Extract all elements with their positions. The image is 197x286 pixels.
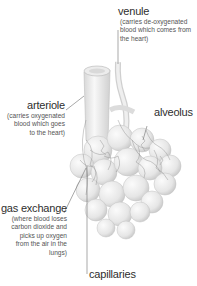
venule-label: venule (carries de-oxygenated blood whic… (118, 6, 191, 43)
alveoli-cluster (70, 125, 181, 239)
capillaries-label: capillaries (89, 269, 136, 281)
venule-vessel (110, 62, 134, 130)
arteriole-term: arteriole (7, 100, 65, 112)
capillaries-term: capillaries (89, 269, 136, 281)
gas-exchange-description: (where blood loses carbon dioxide and pi… (1, 215, 67, 258)
alveolus-label: alveolus (154, 107, 193, 119)
gas-exchange-term: gas exchange (1, 203, 67, 215)
arteriole-label: arteriole (carries oxygenated blood whic… (7, 100, 65, 137)
venule-term: venule (118, 6, 191, 18)
bronchiole-tube (84, 66, 110, 146)
alveolus-term: alveolus (154, 107, 193, 119)
venule-description: (carries de-oxygenated blood which comes… (120, 18, 191, 44)
arteriole-description: (carries oxygenated blood which goes to … (7, 112, 65, 138)
arteriole-leader-line (66, 96, 84, 110)
gas-exchange-label: gas exchange (where blood loses carbon d… (1, 203, 67, 257)
